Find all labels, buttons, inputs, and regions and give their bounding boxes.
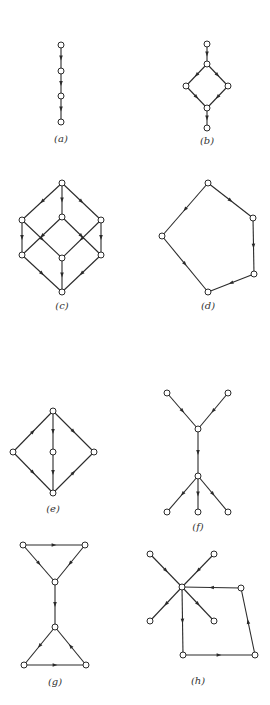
vertex: [19, 217, 25, 223]
caption-g: (g): [48, 676, 62, 687]
vertex: [50, 490, 56, 496]
arrowhead-icon: [51, 470, 55, 475]
vertex: [225, 509, 231, 515]
vertex: [59, 214, 65, 220]
vertex: [52, 624, 58, 630]
vertex: [250, 215, 256, 221]
vertex: [52, 579, 58, 585]
vertex: [50, 449, 56, 455]
vertex: [164, 390, 170, 396]
vertex: [58, 68, 64, 74]
arrowhead-icon: [196, 492, 200, 497]
vertex: [225, 83, 231, 89]
graph-f: [164, 390, 231, 515]
vertex: [204, 41, 210, 47]
arrowhead-icon: [229, 280, 234, 283]
arrowhead-icon: [53, 663, 58, 667]
vertex: [147, 618, 153, 624]
vertex: [179, 584, 185, 590]
vertex: [211, 618, 217, 624]
arrowhead-icon: [60, 273, 64, 278]
arrowhead-icon: [20, 235, 24, 240]
vertex: [159, 233, 165, 239]
vertex: [82, 542, 88, 548]
vertex: [19, 252, 25, 258]
graph-c: [19, 180, 104, 295]
vertex: [204, 125, 210, 131]
vertex: [83, 662, 89, 668]
vertex: [59, 180, 65, 186]
arrowhead-icon: [252, 244, 256, 249]
caption-h: (h): [191, 675, 205, 686]
vertex: [58, 42, 64, 48]
vertex: [21, 662, 27, 668]
caption-a: (a): [54, 133, 68, 144]
vertex: [58, 93, 64, 99]
arrowhead-icon: [59, 81, 63, 86]
arrowhead-icon: [205, 116, 209, 121]
caption-b: (b): [200, 135, 214, 146]
vertex: [59, 255, 65, 261]
vertex: [195, 473, 201, 479]
vertex: [238, 585, 244, 591]
caption-d: (d): [201, 300, 215, 311]
arrowhead-icon: [181, 619, 185, 624]
vertex: [98, 252, 104, 258]
vertex: [204, 61, 210, 67]
vertex: [164, 509, 170, 515]
vertex: [59, 289, 65, 295]
vertex: [180, 652, 186, 658]
arrowhead-icon: [205, 52, 209, 57]
vertex: [251, 271, 257, 277]
arrowhead-icon: [217, 653, 222, 657]
vertex: [252, 652, 258, 658]
arrowhead-icon: [60, 198, 64, 203]
arrowhead-icon: [209, 586, 214, 590]
vertex: [20, 542, 26, 548]
vertex: [50, 408, 56, 414]
vertex: [205, 180, 211, 186]
caption-e: (e): [46, 503, 60, 514]
graph-e: [10, 408, 97, 496]
arrowhead-icon: [53, 602, 57, 607]
vertex: [204, 105, 210, 111]
vertex: [91, 449, 97, 455]
vertex: [183, 83, 189, 89]
arrowhead-icon: [59, 107, 63, 112]
diagram-canvas: [0, 0, 270, 705]
graph-d: [159, 180, 257, 295]
graph-a: [58, 42, 64, 125]
vertex: [10, 449, 16, 455]
vertex: [98, 217, 104, 223]
graph-b: [183, 41, 231, 131]
arrowhead-icon: [51, 429, 55, 434]
vertex: [147, 551, 153, 557]
vertex: [195, 509, 201, 515]
vertex: [195, 426, 201, 432]
vertex: [225, 390, 231, 396]
caption-f: (f): [192, 521, 204, 532]
arrowhead-icon: [52, 543, 57, 547]
arrowhead-icon: [196, 450, 200, 455]
arrowhead-icon: [99, 235, 103, 240]
graph-h: [147, 551, 258, 658]
arrowhead-icon: [59, 56, 63, 61]
vertex: [205, 289, 211, 295]
vertex: [58, 119, 64, 125]
caption-c: (c): [55, 300, 68, 311]
vertex: [211, 551, 217, 557]
graph-g: [20, 542, 89, 668]
